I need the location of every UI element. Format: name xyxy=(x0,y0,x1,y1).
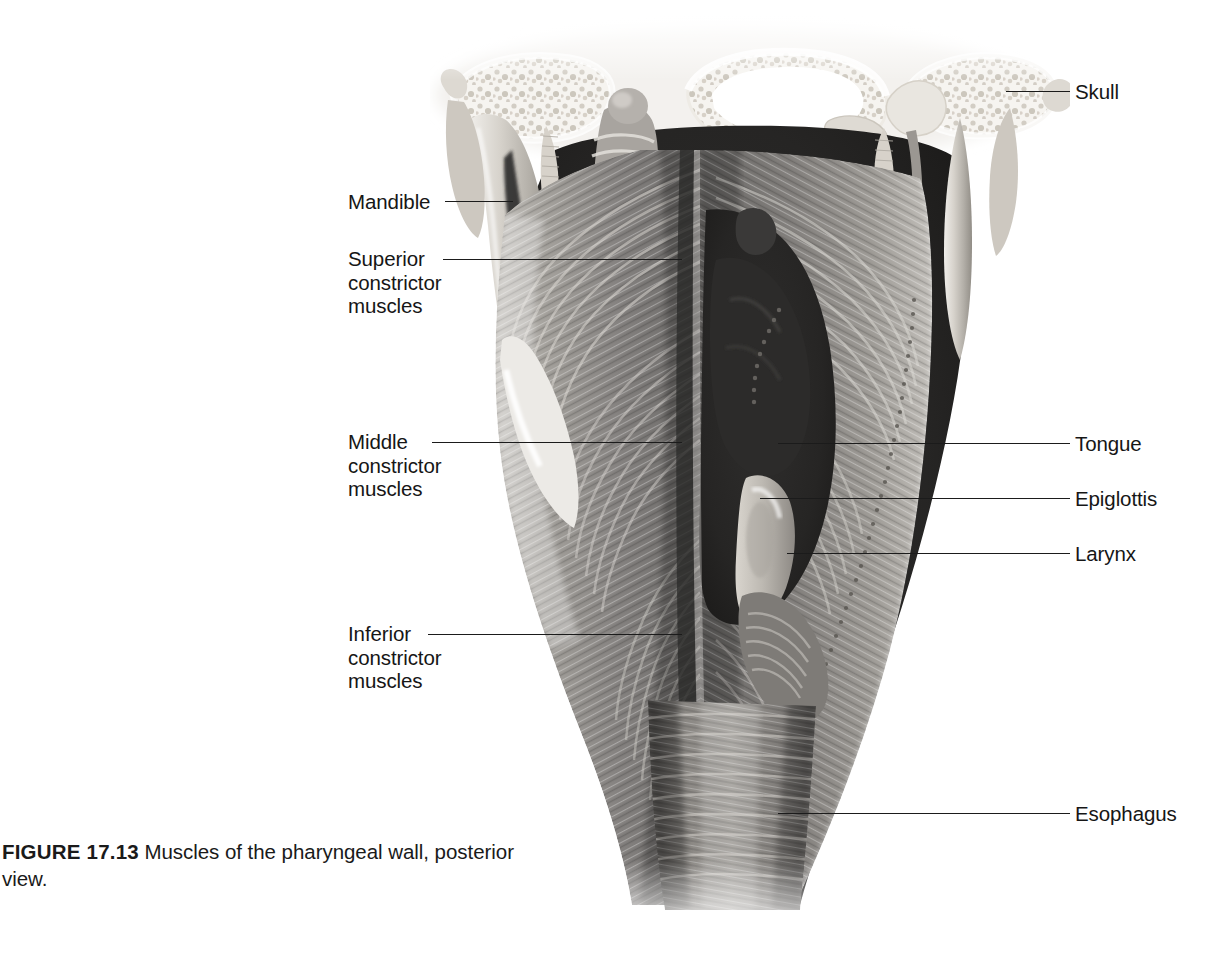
leader-line-tongue xyxy=(778,443,1070,444)
figure-number: FIGURE 17.13 xyxy=(2,840,139,863)
label-inferior-constrictor-muscles-text: Inferior constrictor muscles xyxy=(348,622,441,692)
label-superior-constrictor-muscles-text: Superior constrictor muscles xyxy=(348,247,441,317)
leader-line-skull xyxy=(1006,91,1070,92)
label-skull: Skull xyxy=(1075,80,1119,104)
leader-line-esophagus xyxy=(778,813,1070,814)
leader-line-mandible xyxy=(445,201,513,202)
label-esophagus: Esophagus xyxy=(1075,802,1177,826)
label-mandible: Mandible xyxy=(348,190,430,214)
figure-page: Mandible Superior constrictor muscles Mi… xyxy=(0,0,1217,954)
leader-line-epiglottis xyxy=(760,498,1070,499)
label-middle-constrictor-muscles: Middle constrictor muscles xyxy=(348,430,488,501)
label-middle-constrictor-muscles-text: Middle constrictor muscles xyxy=(348,430,441,500)
label-superior-constrictor-muscles: Superior constrictor muscles xyxy=(348,247,488,318)
pharyngeal-wall-illustration xyxy=(0,0,1217,954)
leader-line-larynx xyxy=(787,553,1070,554)
figure-caption: FIGURE 17.13 Muscles of the pharyngeal w… xyxy=(2,838,562,892)
label-tongue: Tongue xyxy=(1075,432,1142,456)
label-inferior-constrictor-muscles: Inferior constrictor muscles xyxy=(348,622,488,693)
label-larynx: Larynx xyxy=(1075,542,1136,566)
label-epiglottis: Epiglottis xyxy=(1075,487,1157,511)
